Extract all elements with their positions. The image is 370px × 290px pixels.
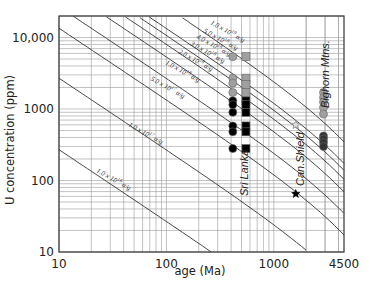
data-point [229,128,237,136]
data-point [242,108,250,116]
y-tick-label: 1000 [23,102,54,116]
data-point [320,110,328,118]
x-axis-label: age (Ma) [174,264,225,278]
data-point [292,120,301,128]
data-point [229,53,237,61]
data-point [242,53,250,61]
iso-dose-line [107,17,345,192]
data-point [242,89,250,97]
x-tick-label: 4500 [329,257,360,271]
y-axis-label: U concentration (ppm) [3,75,17,205]
data-point [242,101,250,109]
y-tick-label: 10 [39,245,54,259]
y-tick-label: 10,000 [12,31,54,45]
data-point [242,128,250,136]
data-point [229,145,237,153]
iso-dose-label: 1.0 x 1017 α/g [127,120,165,147]
u-concentration-vs-age-chart: 1.0 x 1016 α/g1.0 x 1017 α/g5.0 x 1017 α… [0,0,370,290]
iso-dose-label: 1.0 x 1016 α/g [95,166,133,193]
annotation-can-shield: Can.Shield [294,131,306,186]
data-point [320,142,328,150]
annotation-sri-lanka: Sri Lanka [238,150,250,196]
data-point [229,108,237,116]
annotation-bighorn-mtns: Bighorn Mtns. [319,40,331,108]
data-point [229,101,237,109]
y-axis-ticks: 10100100010,000 [12,31,54,259]
y-tick-label: 100 [31,174,54,188]
data-point [242,81,250,89]
data-point [229,89,237,97]
x-tick-label: 10 [51,257,66,271]
data-point [229,79,237,87]
x-tick-label: 1000 [259,257,290,271]
